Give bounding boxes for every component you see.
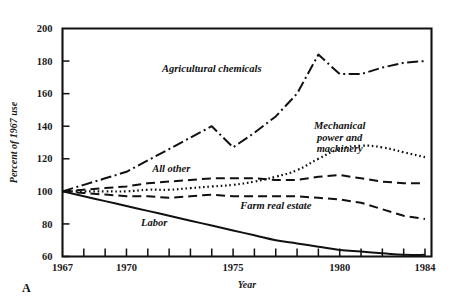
y-axis: 6080100120140160180200 (37, 23, 70, 262)
series-label: Labor (140, 217, 168, 228)
x-tick-label: 1970 (116, 262, 137, 273)
series-label: machinery (317, 143, 363, 154)
series-label: Farm real estate (239, 200, 312, 211)
y-tick-label: 200 (37, 23, 53, 34)
series-label: All other (151, 163, 191, 174)
y-tick-label: 80 (42, 219, 53, 230)
x-tick-label: 1967 (52, 262, 73, 273)
x-tick-label: 1975 (223, 262, 244, 273)
series-line (63, 55, 426, 192)
y-tick-label: 60 (42, 251, 53, 262)
y-tick-label: 100 (37, 186, 53, 197)
x-axis-title: Year (238, 279, 256, 290)
chart-figure: 6080100120140160180200196719701975198019… (0, 0, 465, 305)
y-tick-label: 120 (37, 153, 53, 164)
panel-letter: A (22, 281, 31, 295)
y-tick-label: 180 (37, 56, 53, 67)
y-axis-title: Percent of 1967 use (8, 101, 19, 183)
series-group (63, 55, 426, 255)
y-tick-label: 160 (37, 88, 53, 99)
y-tick-label: 140 (37, 121, 53, 132)
series-line (63, 146, 426, 192)
x-tick-label: 1984 (415, 262, 437, 273)
series-label: Agricultural chemicals (161, 63, 261, 74)
line-chart-svg: 6080100120140160180200196719701975198019… (0, 0, 465, 305)
x-tick-label: 1980 (329, 262, 350, 273)
series-label: power and (316, 132, 363, 143)
series-label: Mechanical (313, 120, 365, 131)
